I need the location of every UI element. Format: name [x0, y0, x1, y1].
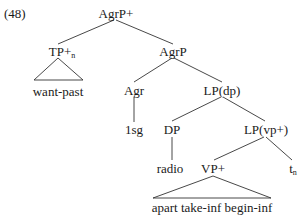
node-lp-dp: LP(dp)	[204, 84, 241, 98]
node-agrp: AgrP	[159, 45, 186, 59]
node-apart-take-inf-begin-inf: apart take-inf begin-inf	[152, 201, 273, 215]
node-dp: DP	[164, 123, 181, 137]
example-number: (48)	[4, 7, 26, 21]
node-radio: radio	[157, 162, 184, 176]
node-trace-n: tn	[289, 162, 297, 180]
tree-edges	[0, 0, 302, 220]
node-vp-plus: VP+	[201, 162, 225, 176]
node-want-past: want-past	[33, 85, 84, 99]
node-agrp-plus: AgrP+	[99, 7, 134, 21]
node-tp-plus: TP+n	[49, 45, 76, 63]
node-1sg: 1sg	[125, 123, 143, 137]
node-lp-vp-plus: LP(vp+)	[244, 123, 288, 137]
node-agr: Agr	[124, 84, 144, 98]
